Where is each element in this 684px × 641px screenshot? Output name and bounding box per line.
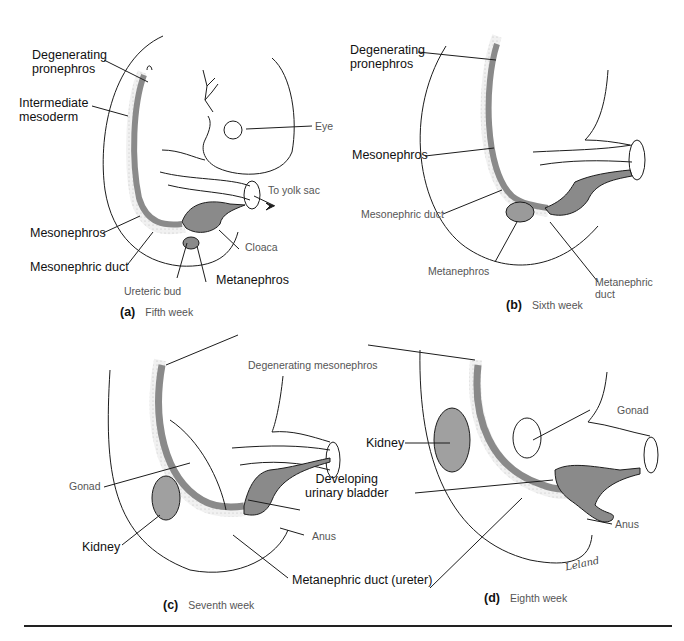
label-intermediate-mesoderm: Intermediate mesoderm (19, 96, 88, 125)
caption-a: (a)Fifth week (120, 305, 193, 319)
label-degenerating-pronephros-b: Degenerating pronephros (350, 43, 425, 72)
label-mesonephros-a: Mesonephros (30, 226, 106, 240)
label-cloaca: Cloaca (245, 241, 278, 253)
label-metanephros-a: Metanephros (216, 273, 289, 287)
label-gonad-c: Gonad (69, 480, 101, 492)
label-metanephros-b: Metanephros (428, 265, 489, 277)
caption-c-text: Seventh week (188, 599, 254, 611)
label-anus-c: Anus (312, 530, 336, 542)
label-anus-d: Anus (615, 518, 639, 530)
panel-c-drawing (104, 335, 340, 578)
label-kidney-c: Kidney (82, 540, 120, 554)
label-degenerating-pronephros-a: Degenerating pronephros (32, 48, 107, 77)
panel-d-drawing (368, 345, 658, 588)
caption-d-text: Eighth week (510, 592, 567, 604)
label-metanephric-duct-ureter: Metanephric duct (ureter) (292, 573, 432, 587)
caption-c-letter: (c) (163, 598, 178, 612)
caption-a-text: Fifth week (145, 306, 193, 318)
label-ureteric-bud: Ureteric bud (124, 285, 181, 297)
caption-b-text: Sixth week (532, 299, 583, 311)
label-gonad-d: Gonad (617, 404, 649, 416)
label-developing-urinary-bladder: Developing urinary bladder (305, 472, 388, 501)
caption-c: (c)Seventh week (163, 598, 254, 612)
label-mesonephric-duct-b: Mesonephric duct (361, 208, 444, 220)
label-eye: Eye (315, 120, 333, 132)
label-to-yolk-sac: To yolk sac (268, 184, 320, 196)
caption-a-letter: (a) (120, 305, 135, 319)
label-metanephric-duct-b: Metanephric duct (595, 276, 653, 300)
label-mesonephric-duct-a: Mesonephric duct (30, 260, 129, 274)
caption-b: (b)Sixth week (506, 298, 583, 312)
label-kidney-d: Kidney (366, 436, 404, 450)
panel-b-drawing (418, 36, 645, 282)
label-mesonephros-b: Mesonephros (352, 148, 428, 162)
label-degenerating-mesonephros: Degenerating mesonephros (248, 359, 378, 371)
panel-a-drawing (92, 36, 312, 282)
caption-d: (d)Eighth week (484, 591, 567, 605)
caption-b-letter: (b) (506, 298, 522, 312)
caption-d-letter: (d) (484, 591, 500, 605)
